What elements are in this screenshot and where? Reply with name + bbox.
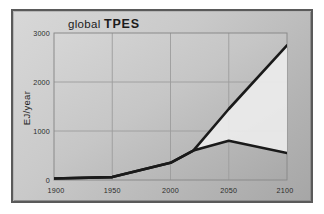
figure-container: 3000 2000 1000 0 1900 1950 2000 2050 210… [0, 0, 324, 214]
y-tick-label-2000: 2000 [33, 78, 50, 87]
x-tick-label-1900: 1900 [48, 186, 65, 195]
y-axis-tick-labels: 3000 2000 1000 0 [33, 29, 50, 185]
chart-plot: 3000 2000 1000 0 1900 1950 2000 2050 210… [0, 0, 324, 214]
y-tick-label-1000: 1000 [33, 127, 50, 136]
x-tick-label-2100: 2100 [277, 186, 294, 195]
chart-title-emphasis: TPES [104, 17, 140, 31]
x-tick-label-2050: 2050 [220, 186, 237, 195]
y-tick-label-3000: 3000 [33, 29, 50, 38]
y-tick-label-0: 0 [46, 176, 50, 185]
y-axis-title: EJ/year [21, 91, 32, 125]
x-tick-label-1950: 1950 [104, 186, 121, 195]
chart-title-lead: global [68, 18, 104, 30]
x-tick-label-2000: 2000 [162, 186, 179, 195]
chart-title: global TPES [68, 17, 140, 31]
x-axis-tick-labels: 1900 1950 2000 2050 2100 [48, 186, 294, 195]
